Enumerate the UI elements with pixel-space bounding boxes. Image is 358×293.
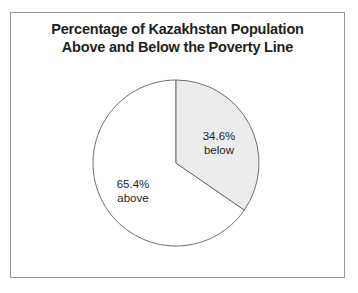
pie-chart: 34.6% below 65.4% above: [0, 0, 358, 293]
pie-label-above-name: above: [104, 191, 162, 205]
pie-label-above-percent: 65.4%: [104, 177, 162, 191]
pie-label-above: 65.4% above: [104, 177, 162, 205]
pie-label-below-percent: 34.6%: [190, 129, 248, 143]
pie-chart-svg: [0, 0, 358, 293]
pie-label-below: 34.6% below: [190, 129, 248, 157]
pie-label-below-name: below: [190, 143, 248, 157]
figure-canvas: Percentage of Kazakhstan Population Abov…: [0, 0, 358, 293]
